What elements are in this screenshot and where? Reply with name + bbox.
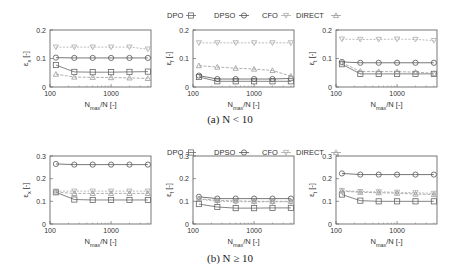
figure: DPODPSOCFODIRECT DPODPSOCFODIRECT 00.10.… [0, 0, 461, 270]
x-tick-label: 1000 [103, 227, 119, 234]
y-axis-label: εt [-] [307, 52, 318, 66]
series-line-cfo [56, 47, 148, 49]
y-tick-label: 0.1 [179, 55, 189, 62]
plot-frame [50, 30, 151, 87]
x-tick-label: 100 [330, 227, 342, 234]
data-point-direct [196, 63, 201, 68]
y-tick-label: 0.3 [36, 153, 46, 160]
x-tick-label: 1000 [103, 90, 119, 97]
y-tick-label: 0.2 [322, 27, 332, 34]
plot-1: 00.10.21001000Nmax/N [-]εf [-] [164, 27, 294, 112]
data-point-direct [53, 72, 58, 77]
plot-5: 00.10.20.31001000Nmax/N [-]εt [-] [307, 153, 437, 249]
x-tick-label: 100 [187, 227, 199, 234]
series-line-dpso [342, 173, 434, 174]
caption-b: (b) N ≥ 10 [207, 252, 254, 265]
data-point-cfo [145, 47, 150, 52]
y-tick-label: 0.3 [179, 153, 189, 160]
legend-top: DPODPSOCFODIRECT [167, 11, 341, 20]
plot-0: 00.10.21001000Nmax/N [-]εx [-] [21, 27, 151, 112]
series-line-dpo [56, 65, 148, 72]
x-axis-label: Nmax/N [-] [370, 100, 402, 111]
plot-2: 00.10.21001000Nmax/N [-]εt [-] [307, 27, 437, 112]
x-tick-label: 100 [44, 90, 56, 97]
legend-label-direct: DIRECT [296, 148, 324, 157]
plots: 00.10.21001000Nmax/N [-]εx [-]00.10.2100… [21, 27, 437, 249]
x-tick-label: 1000 [246, 90, 262, 97]
x-tick-label: 100 [187, 90, 199, 97]
x-tick-label: 100 [44, 227, 56, 234]
plot-frame [50, 156, 151, 224]
x-tick-label: 1000 [389, 227, 405, 234]
series-line-dpso [199, 76, 291, 79]
y-tick-label: 0.1 [36, 198, 46, 205]
series-line-dpso [342, 62, 434, 63]
x-axis-label: Nmax/N [-] [227, 100, 259, 111]
legend-label-cfo: CFO [262, 11, 278, 20]
series-line-dpo [199, 204, 291, 208]
y-axis-label: εt [-] [307, 183, 318, 197]
data-point-cfo [431, 38, 436, 43]
series-line-direct [56, 74, 148, 78]
x-tick-label: 1000 [246, 227, 262, 234]
x-axis-label: Nmax/N [-] [84, 100, 116, 111]
x-axis-label: Nmax/N [-] [227, 237, 259, 248]
legend-label-dpso: DPSO [214, 11, 235, 20]
x-tick-label: 1000 [389, 90, 405, 97]
y-tick-label: 0.2 [36, 27, 46, 34]
plot-frame [336, 30, 437, 87]
data-point-dpo [53, 62, 58, 67]
series-line-dpo [342, 195, 434, 202]
y-tick-label: 0.1 [322, 55, 332, 62]
series-line-direct [56, 192, 148, 193]
y-tick-label: 0.3 [322, 153, 332, 160]
plot-frame [193, 156, 294, 224]
x-tick-label: 100 [330, 90, 342, 97]
y-axis-label: εf [-] [164, 52, 175, 66]
caption-a: (a) N < 10 [207, 113, 253, 126]
y-tick-label: 0.2 [36, 175, 46, 182]
y-axis-label: εx [-] [21, 51, 32, 66]
y-tick-label: 0.1 [179, 198, 189, 205]
y-axis-label: εx [-] [21, 183, 32, 198]
series-line-direct [199, 199, 291, 202]
plot-3: 00.10.20.31001000Nmax/N [-]εx [-] [21, 153, 151, 249]
y-tick-label: 0.1 [36, 55, 46, 62]
series-line-dpso [56, 164, 148, 165]
legend-label-dpo: DPO [167, 11, 183, 20]
series-line-direct [199, 66, 291, 77]
y-tick-label: 0.1 [322, 198, 332, 205]
y-tick-label: 0.2 [179, 27, 189, 34]
y-tick-label: 0.2 [179, 175, 189, 182]
data-point-cfo [288, 41, 293, 46]
legend-label-direct: DIRECT [296, 11, 324, 20]
y-tick-label: 0.2 [322, 175, 332, 182]
plot-4: 00.10.20.31001000Nmax/N [-]εf [-] [164, 153, 294, 249]
series-line-cfo [342, 39, 434, 40]
x-axis-label: Nmax/N [-] [84, 237, 116, 248]
plot-frame [336, 156, 437, 224]
y-axis-label: εf [-] [164, 183, 175, 197]
series-line-dpso [199, 197, 291, 199]
x-axis-label: Nmax/N [-] [370, 237, 402, 248]
